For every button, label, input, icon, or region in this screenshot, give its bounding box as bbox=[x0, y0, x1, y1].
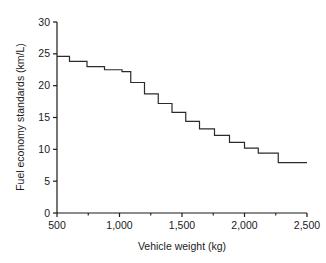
y-axis-title: Fuel economy standards (km/L) bbox=[14, 43, 26, 191]
x-axis-ticks bbox=[57, 213, 307, 217]
y-tick-label: 15 bbox=[38, 111, 50, 123]
step-chart-svg: 051015202530 5001,0001,5002,0002,500 Veh… bbox=[0, 0, 326, 263]
plot-group: 051015202530 5001,0001,5002,0002,500 Veh… bbox=[14, 16, 320, 252]
y-tick-label: 5 bbox=[44, 175, 50, 187]
x-tick-label: 1,500 bbox=[169, 219, 195, 231]
x-tick-label: 2,500 bbox=[294, 219, 320, 231]
y-tick-label: 30 bbox=[38, 16, 50, 28]
y-tick-label: 20 bbox=[38, 79, 50, 91]
y-tick-label: 0 bbox=[44, 207, 50, 219]
step-series-line bbox=[57, 56, 307, 162]
y-axis-tick-labels: 051015202530 bbox=[38, 16, 50, 219]
x-tick-label: 1,000 bbox=[106, 219, 132, 231]
y-tick-label: 10 bbox=[38, 143, 50, 155]
y-tick-label: 25 bbox=[38, 47, 50, 59]
x-axis-tick-labels: 5001,0001,5002,0002,500 bbox=[48, 219, 320, 231]
x-tick-label: 2,000 bbox=[231, 219, 257, 231]
chart-figure: 051015202530 5001,0001,5002,0002,500 Veh… bbox=[0, 0, 326, 263]
x-axis-title: Vehicle weight (kg) bbox=[138, 240, 226, 252]
x-tick-label: 500 bbox=[48, 219, 66, 231]
